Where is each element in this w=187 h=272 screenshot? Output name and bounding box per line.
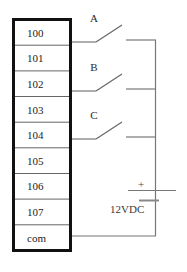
switch-a-blade <box>96 25 122 42</box>
switch-b-blade <box>96 74 122 91</box>
battery-symbol <box>128 191 176 201</box>
switch-c-branch <box>66 122 156 139</box>
terminal-label-106: 106 <box>27 180 44 192</box>
terminal-label-107: 107 <box>27 206 44 218</box>
polarity-plus-label: + <box>138 178 144 190</box>
switch-a-branch <box>66 25 156 42</box>
terminal-label-com: com <box>27 232 46 244</box>
terminal-label-101: 101 <box>27 52 44 64</box>
switch-c-blade <box>96 122 122 139</box>
switch-label-c: C <box>90 109 97 121</box>
terminal-label-100: 100 <box>27 27 44 39</box>
terminal-label-103: 103 <box>27 104 44 116</box>
terminal-label-102: 102 <box>27 78 44 90</box>
switch-label-a: A <box>90 12 98 24</box>
switch-b-branch <box>66 74 156 91</box>
terminal-label-105: 105 <box>27 155 44 167</box>
switch-label-b: B <box>90 61 97 73</box>
terminal-block: 100 101 102 103 104 105 106 107 com <box>14 20 71 251</box>
power-source-label: 12VDC <box>110 203 144 215</box>
terminal-label-104: 104 <box>27 129 44 141</box>
diagram-canvas: 100 101 102 103 104 105 106 107 com A B … <box>0 0 187 272</box>
wiring-diagram: 100 101 102 103 104 105 106 107 com A B … <box>0 0 187 272</box>
